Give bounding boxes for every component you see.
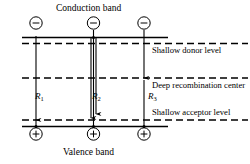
band-diagram-figure: Conduction band Valence band Shallow don… xyxy=(0,0,250,164)
shallow-acceptor-level-label: Shallow acceptor level xyxy=(152,108,230,118)
transition-r3-label-sub: 3 xyxy=(154,95,157,102)
shallow-donor-level-label: Shallow donor level xyxy=(152,46,221,56)
hole-2 xyxy=(87,128,99,140)
junction-dots xyxy=(35,36,146,128)
hole-carriers xyxy=(30,128,150,140)
deep-recombination-center-label: Deep recombination center xyxy=(152,81,248,91)
electron-2 xyxy=(87,17,99,29)
transition-r2-label-sub: 2 xyxy=(98,95,101,102)
hole-3 xyxy=(138,128,150,140)
electron-carriers xyxy=(30,17,150,29)
transition-r1-label: R1 xyxy=(35,91,44,102)
valence-band-title: Valence band xyxy=(63,147,114,158)
electron-1 xyxy=(30,17,42,29)
hole-1 xyxy=(30,128,42,140)
transition-r2-label: R2 xyxy=(92,91,101,102)
transition-r1-label-sub: 1 xyxy=(41,95,44,102)
electron-3 xyxy=(138,17,150,29)
transition-r3-label: R3 xyxy=(148,91,157,102)
conduction-band-title: Conduction band xyxy=(56,3,121,14)
transition-r2 xyxy=(91,30,96,128)
